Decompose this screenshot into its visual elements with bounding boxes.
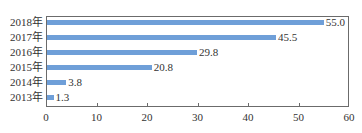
y-axis-label: 2017年 — [10, 31, 43, 43]
y-axis-label: 2018年 — [10, 16, 43, 28]
y-axis-label: 2016年 — [10, 46, 43, 58]
bar — [47, 80, 66, 85]
x-axis-tick-label: 50 — [293, 111, 304, 123]
value-label: 20.8 — [154, 61, 173, 73]
plot-frame — [46, 16, 349, 107]
x-axis-tick — [97, 103, 98, 107]
bar — [47, 50, 197, 55]
y-axis-label: 2014年 — [10, 76, 43, 88]
value-label: 29.8 — [199, 46, 218, 58]
x-axis-tick-label: 10 — [91, 111, 102, 123]
bar — [47, 65, 152, 70]
x-axis-tick — [299, 103, 300, 107]
x-axis-tick-label: 20 — [142, 111, 153, 123]
x-axis-tick-label: 40 — [243, 111, 254, 123]
value-label: 1.3 — [56, 91, 70, 103]
x-axis-tick-label: 30 — [192, 111, 203, 123]
value-label: 55.0 — [326, 16, 345, 28]
value-label: 3.8 — [68, 76, 82, 88]
y-axis-label: 2013年 — [10, 91, 43, 103]
x-axis-tick — [248, 103, 249, 107]
x-axis-tick-label: 0 — [43, 111, 49, 123]
bar — [47, 20, 324, 25]
x-axis-tick-label: 60 — [344, 111, 355, 123]
bar — [47, 35, 276, 40]
y-axis-label: 2015年 — [10, 61, 43, 73]
horizontal-bar-chart: 2018年55.02017年45.52016年29.82015年20.82014… — [0, 0, 362, 133]
x-axis-tick — [198, 103, 199, 107]
x-axis-tick — [147, 103, 148, 107]
bar — [47, 95, 54, 100]
value-label: 45.5 — [278, 31, 297, 43]
